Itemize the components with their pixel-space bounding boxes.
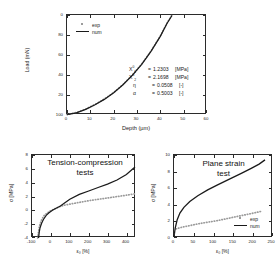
bottom-right-chart: σ [MPa] [140,140,277,279]
y-tick-label: 0 [157,235,170,240]
tickmark [269,155,272,156]
y-tick-label: 0 [15,207,28,212]
tickmark [132,224,135,225]
bottom-left-y-axis-label: σ [MPa] [8,173,14,213]
y-tick-label: 4 [157,201,170,206]
y-tick-label: 8 [15,152,28,157]
tickmark [174,155,177,156]
tickmark [203,95,206,96]
x-tick-label: 10 [87,116,92,121]
tickmark [160,15,161,18]
tickmark [114,15,115,18]
y-tick-label: 80 [48,32,63,37]
figure-panel: Load (mN) [0,0,277,279]
tickmark [203,35,206,36]
annotation-row: X01 = 1.2303 [MPa] [129,65,188,73]
bottom-right-title-line1: Plane strain [177,160,270,168]
bottom-left-title-line1: Tension-compression [35,159,135,167]
tickmark [127,155,128,158]
y-tick-label: 40 [48,72,63,77]
tickmark [203,55,206,56]
legend-label: exp [250,216,258,222]
annotation-unit: [-] [179,90,184,96]
tickmark [32,197,35,198]
x-tick-label: 40 [157,116,162,121]
tickmark [67,114,70,115]
top-chart-legend: exp num [76,21,102,35]
y-tick-label: 0 [48,12,63,17]
annotation-equals: = [146,74,153,80]
tickmark [32,155,35,156]
dotted-marker-icon [234,216,247,221]
x-tick-label: 20 [110,116,115,121]
tickmark [132,210,135,211]
annotation-equals: = [150,90,157,96]
top-chart-x-axis-label: Depth (µm) [66,125,206,131]
bottom-left-x-axis-label: ε₀ [%] [31,248,135,254]
tickmark [194,155,195,158]
x-tick-label: 50 [180,116,185,121]
tickmark [233,233,234,236]
x-tick-label: 0 [65,116,67,121]
annotation-row: η = 0.0508 [-] [129,82,188,90]
legend-label: exp [92,22,100,28]
annotation-value: 2.1698 [153,74,175,80]
annotation-unit: [MPa] [175,66,188,72]
annotation-equals: = [146,66,153,72]
tickmark [67,110,68,113]
tickmark [214,233,215,236]
tickmark [67,15,70,16]
x-tick-label: 400 [122,239,129,244]
tickmark [194,233,195,236]
tickmark [137,15,138,18]
x-tick-label: 30 [134,116,139,121]
dotted-marker-icon [76,22,89,27]
tickmark [160,110,161,113]
bottom-right-y-axis-label: σ [MPa] [150,173,156,213]
legend-entry-num: num [76,28,102,35]
tickmark [233,155,234,158]
x-tick-label: 0 [172,239,174,244]
x-tick-label: 150 [229,239,236,244]
tickmark [108,233,109,236]
tickmark [132,197,135,198]
annotation-value: 0.5003 [157,90,179,96]
tickmark [174,205,177,206]
x-tick-label: 100 [65,239,72,244]
tickmark [174,233,175,236]
x-tick-label: 0 [49,239,51,244]
y-tick-label: 6 [157,185,170,190]
tickmark [206,110,207,113]
y-tick-label: -2 [15,221,28,226]
bottom-left-series-num [39,167,135,238]
legend-entry-num: num [234,222,260,229]
tickmark [174,237,177,238]
x-tick-label: 300 [103,239,110,244]
tickmark [32,233,33,236]
legend-label: num [92,29,102,35]
x-tick-label: 200 [84,239,91,244]
y-tick-label: 6 [15,165,28,170]
y-tick-label: 60 [48,52,63,57]
tickmark [253,233,254,236]
tickmark [90,15,91,18]
annotation-symbol: η [129,82,150,88]
y-tick-label: 4 [15,179,28,184]
y-tick-label: 2 [15,193,28,198]
y-tick-label: 100 [48,112,63,117]
tickmark [184,15,185,18]
y-tick-label: 8 [157,168,170,173]
annotation-value: 0.0508 [157,82,179,88]
top-chart: Load (mN) [0,0,277,140]
tickmark [51,233,52,236]
tickmark [67,35,70,36]
bottom-left-chart: σ [MPa] [0,140,140,279]
y-tick-label: 2 [157,218,170,223]
x-tick-label: -100 [27,239,36,244]
x-tick-label: 250 [267,239,274,244]
tickmark [203,75,206,76]
annotation-symbol: X01 [129,65,146,74]
tickmark [132,183,135,184]
legend-label: num [250,223,260,229]
x-tick-label: 60 [204,116,209,121]
